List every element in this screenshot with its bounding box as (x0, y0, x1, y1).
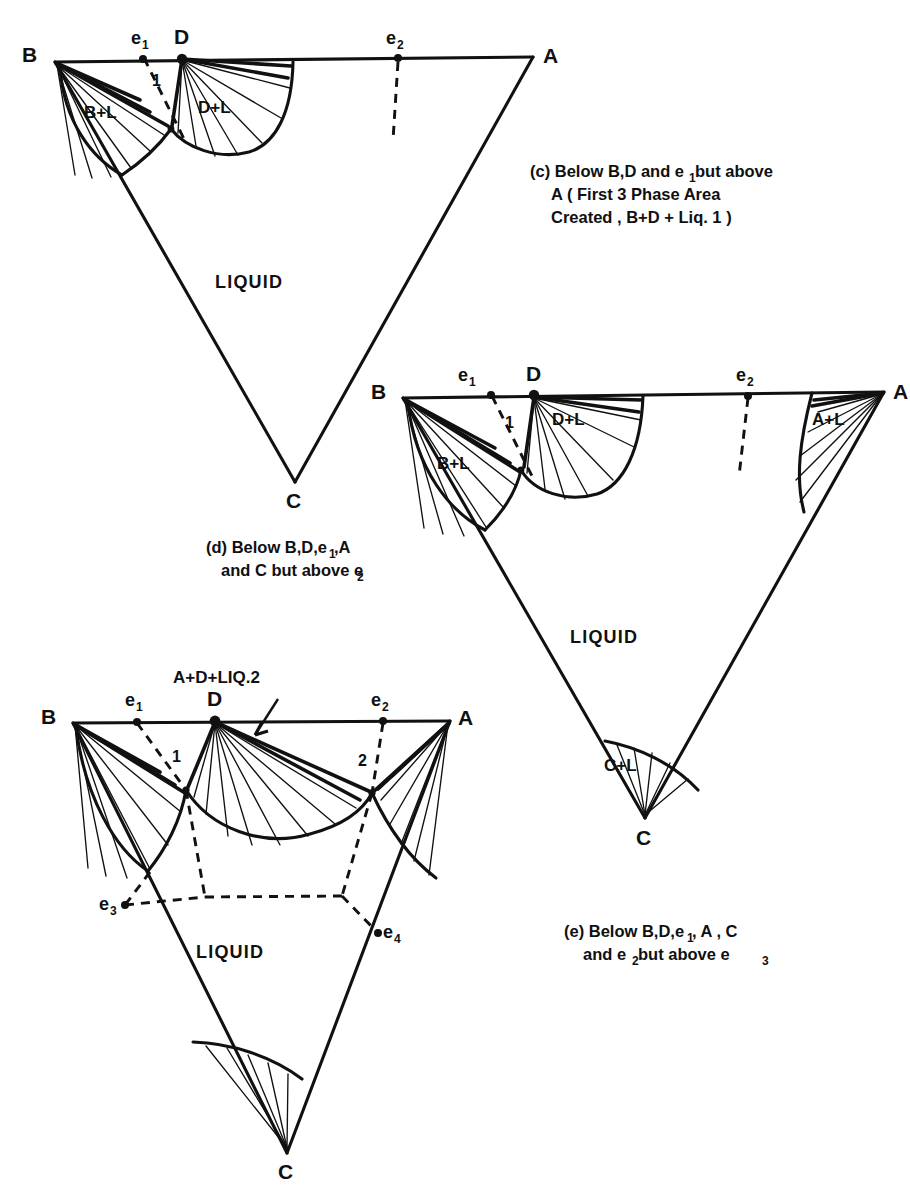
panel-d-invariant-label-1: 1 (505, 414, 514, 431)
panel-d-region-DL: D+L (552, 410, 585, 429)
panel-c-label-A: A (543, 44, 558, 67)
panel-d-label-D: D (526, 362, 541, 385)
panel-e-liquidus-D (186, 790, 372, 838)
svg-text:,A: ,A (334, 538, 351, 556)
svg-text:e: e (371, 690, 381, 710)
panel-d-region-CL: C+L (604, 756, 637, 775)
panel-d-region-AL: A+L (812, 410, 845, 429)
panel-e: A+D+LIQ.2 B A C D e 1 e 2 e 3 e 4 1 2 LI… (41, 668, 769, 1183)
panel-e-boundary-B-to-pt1 (148, 790, 186, 871)
panel-e-label-D: D (207, 687, 222, 710)
panel-d-label-e1: e 1 (458, 365, 476, 389)
panel-e-dashed-pt1-down (186, 790, 205, 897)
panel-c-region-LIQUID: LIQUID (215, 272, 283, 292)
svg-text:2: 2 (397, 38, 404, 52)
panel-c-region-BL: B+L (84, 103, 117, 122)
svg-text:2: 2 (357, 570, 364, 584)
panel-e-caption: (e) Below B,D,e 1 , A , C and e 2 but ab… (564, 922, 769, 968)
panel-c-invariant-point-1 (168, 126, 175, 133)
panel-c-invariant-label-1: 1 (152, 72, 161, 89)
panel-e-invariant-point-1 (182, 786, 189, 793)
svg-text:e: e (99, 894, 109, 914)
svg-text:e: e (125, 690, 135, 710)
panel-e-invariant-label-1: 1 (172, 748, 181, 765)
svg-text:4: 4 (394, 932, 401, 946)
panel-c-point-e1 (139, 55, 147, 63)
panel-c-label-e2: e 2 (386, 28, 404, 52)
svg-text:3: 3 (762, 954, 769, 968)
svg-text:but above: but above (695, 162, 773, 180)
svg-text:1: 1 (136, 700, 143, 714)
panel-c-label-B: B (22, 43, 37, 66)
svg-text:e: e (386, 28, 396, 48)
panel-d-region-LIQUID: LIQUID (570, 627, 638, 647)
panel-c-dashed-e2 (393, 62, 398, 140)
panel-d-caption-line-1: (d) Below B,D,e 1 ,A (206, 538, 351, 561)
phase-diagram-svg: B A C D e 1 e 2 1 B+L D+L LIQUID (c) Bel… (0, 0, 910, 1189)
panel-c-boundary-B-to-pt1 (122, 129, 171, 175)
panel-e-dashed-pt1-to-e3 (125, 872, 150, 905)
panel-e-dashed-e3-to-mid (125, 897, 205, 905)
panel-e-label-e2: e 2 (371, 690, 389, 714)
panel-e-caption-line-2: and e 2 but above e 3 (583, 945, 769, 968)
panel-c-label-e1: e 1 (131, 28, 149, 52)
panel-d-triangle-edge-AC (645, 392, 884, 818)
panel-e-point-D (210, 716, 221, 727)
panel-c-caption-line-1: (c) Below B,D and e 1 but above (530, 162, 773, 185)
panel-d-label-B: B (371, 380, 386, 403)
panel-e-point-e4 (374, 929, 382, 937)
svg-text:2: 2 (747, 375, 754, 389)
panel-e-fan-D (188, 722, 371, 800)
panel-c-caption-line-2: A ( First 3 Phase Area (551, 185, 721, 203)
panel-d-region-BL: B+L (437, 454, 470, 473)
svg-text:e: e (383, 922, 393, 942)
panel-d-invariant-point-1 (518, 467, 525, 474)
svg-text:, A , C: , A , C (692, 922, 738, 940)
svg-text:2: 2 (382, 700, 389, 714)
svg-text:1: 1 (469, 375, 476, 389)
svg-text:e: e (131, 28, 141, 48)
svg-text:and e: and e (583, 945, 626, 963)
panel-e-annotation-label: A+D+LIQ.2 (173, 668, 260, 687)
panel-e-point-e3 (121, 901, 129, 909)
panel-d-caption: (d) Below B,D,e 1 ,A and C but above e 2 (206, 538, 364, 584)
panel-d-caption-line-2: and C but above e 2 (221, 561, 364, 584)
svg-text:3: 3 (110, 904, 117, 918)
panel-e-point-e1 (133, 718, 141, 726)
panel-e-label-e3: e 3 (99, 894, 117, 918)
panel-c-point-e2 (394, 54, 402, 62)
panel-e-region-LIQUID: LIQUID (196, 942, 264, 962)
panel-e-dashed-pt2-down (342, 793, 372, 896)
panel-c-region-DL: D+L (198, 98, 231, 117)
svg-text:(e) Below B,D,e: (e) Below B,D,e (564, 922, 684, 940)
svg-text:(d) Below B,D,e: (d) Below B,D,e (206, 538, 327, 556)
panel-e-dashed-mid-span (205, 896, 342, 897)
panel-e-label-e4: e 4 (383, 922, 401, 946)
svg-text:1: 1 (142, 38, 149, 52)
panel-d-label-C: C (636, 826, 651, 849)
panel-d-point-D (529, 390, 539, 400)
panel-e-triangle-edge-AC (287, 721, 450, 1153)
panel-d-point-e2 (744, 392, 752, 400)
panel-e-triangle-edge-BC (73, 723, 287, 1153)
panel-e-label-B: B (41, 705, 56, 728)
panel-d: B A C D e 1 e 2 1 B+L D+L A+L C+L LIQUID… (206, 362, 908, 849)
figure-canvas: B A C D e 1 e 2 1 B+L D+L LIQUID (c) Bel… (0, 0, 910, 1189)
panel-c-label-C: C (286, 489, 301, 512)
panel-e-caption-line-1: (e) Below B,D,e 1 , A , C (564, 922, 738, 945)
panel-d-boundary-B-to-pt1 (485, 470, 521, 530)
panel-c-caption: (c) Below B,D and e 1 but above A ( Firs… (530, 162, 773, 226)
panel-e-invariant-point-2 (368, 789, 375, 796)
panel-c-caption-line-3: Created , B+D + Liq. 1 ) (551, 208, 732, 226)
panel-d-label-A: A (893, 380, 908, 403)
panel-c-point-D (177, 54, 187, 64)
panel-e-annotation-arrow (255, 699, 278, 735)
panel-e-point-e2 (379, 717, 387, 725)
panel-d-dashed-e2 (739, 398, 748, 476)
panel-c-label-D: D (174, 25, 189, 48)
panel-e-invariant-label-2: 2 (358, 752, 367, 769)
svg-text:e: e (458, 365, 468, 385)
panel-d-point-e1 (487, 391, 495, 399)
panel-e-label-A: A (458, 706, 473, 729)
svg-text:but above e: but above e (638, 945, 730, 963)
